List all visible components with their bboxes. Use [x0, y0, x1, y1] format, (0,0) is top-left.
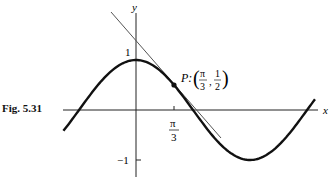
point-label: P:: [180, 71, 192, 85]
point-y-num: 1: [215, 68, 220, 79]
point-p: [171, 82, 176, 87]
y-tick-label-neg-1: −1: [117, 154, 129, 166]
paren-right: ): [222, 67, 229, 90]
point-x-den: 3: [200, 81, 205, 92]
x-tick-label-den: 3: [171, 131, 177, 143]
y-tick-label-1: 1: [125, 46, 131, 58]
x-axis-label: x: [322, 104, 328, 116]
cosine-plot: y x 1 −1 π 3 P: ( π 3 , 1 2 ): [0, 0, 330, 177]
y-axis-label: y: [131, 1, 137, 13]
comma: ,: [209, 75, 212, 87]
point-y-den: 2: [215, 81, 220, 92]
paren-left: (: [193, 67, 200, 90]
x-tick-label-num: π: [170, 117, 176, 129]
point-x-num: π: [200, 68, 205, 79]
